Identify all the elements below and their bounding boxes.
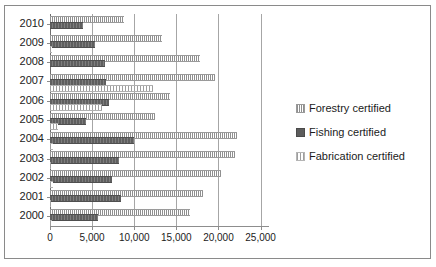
legend-swatch-fabrication-icon	[296, 152, 305, 161]
y-tick-2009	[47, 43, 50, 44]
x-tick-label: 0	[47, 232, 53, 243]
x-tick-label: 20,000	[203, 232, 234, 243]
y-tick-label-2006: 2006	[10, 94, 44, 106]
x-tick-15000	[176, 226, 177, 230]
category-row-2010	[0, 14, 436, 33]
x-tick-20000	[218, 226, 219, 230]
legend-entry-fishing[interactable]: Fishing certified	[296, 126, 428, 138]
bar-fishing-2002	[50, 176, 112, 183]
category-row-2007	[0, 72, 436, 91]
legend-label: Fabrication certified	[309, 150, 405, 162]
y-tick-label-2005: 2005	[10, 113, 44, 125]
y-tick-2001	[47, 197, 50, 198]
legend-label: Forestry certified	[309, 102, 391, 114]
y-tick-2000	[47, 216, 50, 217]
x-axis-line	[50, 226, 269, 227]
legend-entry-fabrication[interactable]: Fabrication certified	[296, 150, 428, 162]
y-tick-2006	[47, 101, 50, 102]
y-tick-label-2009: 2009	[10, 36, 44, 48]
y-tick-2004	[47, 139, 50, 140]
category-row-2008	[0, 53, 436, 72]
x-tick-label: 25,000	[245, 232, 276, 243]
x-tick-25000	[261, 226, 262, 230]
legend-swatch-fishing-icon	[296, 128, 305, 137]
bar-fishing-2010	[50, 22, 83, 29]
bar-fishing-2001	[50, 195, 121, 202]
bar-chart-figure: 05,00010,00015,00020,00025,000 201020092…	[0, 0, 436, 267]
x-tick-0	[50, 226, 51, 230]
bar-fishing-2004	[50, 137, 134, 144]
y-tick-2007	[47, 81, 50, 82]
bar-fishing-2008	[50, 60, 105, 67]
bar-fishing-2000	[50, 214, 98, 221]
y-tick-2008	[47, 62, 50, 63]
y-tick-label-2010: 2010	[10, 17, 44, 29]
y-tick-2010	[47, 24, 50, 25]
y-tick-label-2002: 2002	[10, 171, 44, 183]
legend-label: Fishing certified	[309, 126, 386, 138]
x-tick-label: 5,000	[80, 232, 105, 243]
x-tick-label: 15,000	[161, 232, 192, 243]
y-tick-2003	[47, 159, 50, 160]
bar-fishing-2009	[50, 41, 95, 48]
x-tick-5000	[92, 226, 93, 230]
legend-entry-forestry[interactable]: Forestry certified	[296, 102, 428, 114]
bar-fishing-2003	[50, 157, 119, 164]
category-row-2001	[0, 187, 436, 206]
chart-legend: Forestry certifiedFishing certifiedFabri…	[296, 102, 428, 174]
x-tick-label: 10,000	[119, 232, 150, 243]
y-tick-label-2007: 2007	[10, 74, 44, 86]
y-tick-label-2008: 2008	[10, 55, 44, 67]
y-tick-label-2003: 2003	[10, 152, 44, 164]
y-tick-2002	[47, 178, 50, 179]
category-row-2009	[0, 33, 436, 52]
y-tick-label-2001: 2001	[10, 190, 44, 202]
y-tick-label-2000: 2000	[10, 209, 44, 221]
y-tick-label-2004: 2004	[10, 132, 44, 144]
x-tick-10000	[134, 226, 135, 230]
y-tick-2005	[47, 120, 50, 121]
category-row-2000	[0, 207, 436, 226]
legend-swatch-forestry-icon	[296, 104, 305, 113]
